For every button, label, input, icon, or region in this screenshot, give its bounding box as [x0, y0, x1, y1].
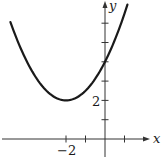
- y-axis-label: y: [108, 0, 117, 13]
- x-tick-label-neg2: −2: [57, 143, 76, 158]
- x-axis-arrow-icon: [143, 137, 150, 142]
- parabola-curve: [10, 5, 127, 101]
- graph: x y −2 2: [0, 0, 163, 159]
- y-tick-label-2: 2: [92, 94, 100, 109]
- y-axis-arrow-icon: [103, 1, 108, 8]
- x-axis-label: x: [153, 131, 161, 146]
